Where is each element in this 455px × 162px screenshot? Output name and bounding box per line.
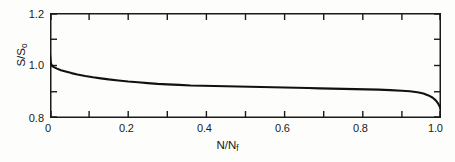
plot-svg <box>50 13 441 118</box>
x-axis-title-subscript: f <box>236 144 238 153</box>
y-tick-label-3: 0.8 <box>18 112 44 124</box>
x-tick-label-4: 0.6 <box>275 122 290 134</box>
plot-area <box>50 13 441 118</box>
x-tick-label-2: 0.2 <box>119 122 134 134</box>
axis-ticks <box>50 13 441 118</box>
y-axis-title-subscript: o <box>20 43 29 48</box>
y-tick-label-2: 1.0 <box>18 59 44 71</box>
x-tick-label-5: 0.8 <box>353 122 368 134</box>
x-tick-label-3: 0.4 <box>197 122 212 134</box>
data-curve <box>50 55 441 111</box>
x-axis-title: N/Nf <box>0 139 455 153</box>
plot-frame <box>51 14 441 118</box>
y-axis-title: S/So <box>15 25 29 85</box>
x-axis-title-prefix: N/N <box>216 139 236 151</box>
x-tick-label-1: 0 <box>45 122 51 134</box>
figure-container: S/So 1.2 1.0 0.8 0 0.2 0.4 0.6 0.8 1.0 N… <box>0 0 455 162</box>
y-tick-label-1: 1.2 <box>18 8 44 20</box>
x-tick-label-6: 1.0 <box>428 122 443 134</box>
